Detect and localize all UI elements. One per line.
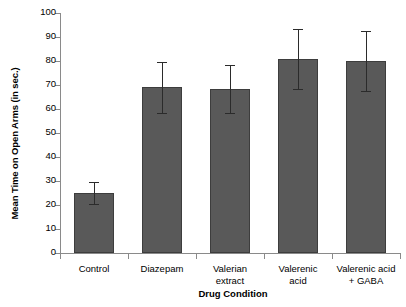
error-bar-cap-lower (157, 113, 167, 114)
error-bar-cap-upper (157, 62, 167, 63)
x-tick-mark (128, 254, 129, 259)
x-tick-mark (400, 254, 401, 259)
y-tick-label: 40 (45, 150, 56, 161)
y-tick-label: 0 (51, 246, 56, 257)
y-axis-line (60, 13, 61, 254)
error-bar-line (230, 65, 231, 113)
y-axis-title: Mean Time on Open Arms (in sec.) (9, 24, 20, 264)
error-bar-line (94, 182, 95, 204)
y-tick-label: 60 (45, 102, 56, 113)
error-bar-line (162, 62, 163, 112)
x-tick-label: Valerian extract (196, 263, 264, 286)
y-tick-label: 50 (45, 126, 56, 137)
error-bar-cap-lower (225, 113, 235, 114)
x-tick-mark (196, 254, 197, 259)
x-tick-mark (332, 254, 333, 259)
y-tick-label: 80 (45, 54, 56, 65)
error-bar-line (366, 31, 367, 91)
plot-area: 0102030405060708090100 ControlDiazepamVa… (60, 13, 400, 253)
error-bar-cap-lower (293, 89, 303, 90)
error-bar-line (298, 29, 299, 89)
y-tick-label: 10 (45, 222, 56, 233)
error-bar-cap-lower (361, 91, 371, 92)
x-tick-mark (60, 254, 61, 259)
y-tick-label: 20 (45, 198, 56, 209)
bar-chart-figure: Mean Time on Open Arms (in sec.) 0102030… (0, 0, 406, 307)
x-tick-mark (264, 254, 265, 259)
x-axis-line (60, 253, 401, 254)
x-tick-label: Valerenic acid + GABA (332, 263, 400, 286)
error-bar-cap-upper (293, 29, 303, 30)
error-bar-cap-upper (361, 31, 371, 32)
x-tick-label: Control (60, 263, 128, 275)
x-tick-label: Valerenic acid (264, 263, 332, 286)
y-tick-label: 70 (45, 78, 56, 89)
error-bar-cap-upper (225, 65, 235, 66)
error-bar-cap-lower (89, 204, 99, 205)
error-bar-cap-upper (89, 182, 99, 183)
y-tick-label: 100 (40, 6, 56, 17)
x-tick-label: Diazepam (128, 263, 196, 275)
y-tick-label: 90 (45, 30, 56, 41)
x-axis-title: Drug Condition (60, 288, 406, 299)
y-tick-label: 30 (45, 174, 56, 185)
